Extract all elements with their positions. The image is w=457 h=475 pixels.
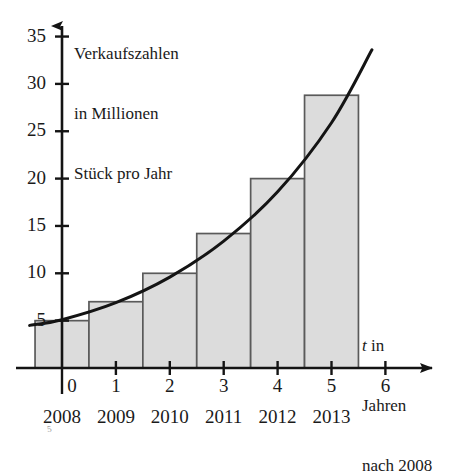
scan-artifact: 5 bbox=[46, 424, 52, 435]
x-tick-label: 1 bbox=[99, 375, 133, 397]
y-tick-label: 25 bbox=[2, 119, 46, 141]
y-axis-label-line-1: Verkaufszahlen bbox=[74, 44, 179, 64]
y-axis-label-line-3: Stück pro Jahr bbox=[74, 164, 179, 184]
x-tick-label: 0 bbox=[55, 375, 89, 397]
x-tick-label: 5 bbox=[315, 375, 349, 397]
y-tick-label: 5 bbox=[2, 309, 46, 331]
bar bbox=[305, 95, 359, 368]
x-tick-label: 3 bbox=[207, 375, 241, 397]
y-tick-label: 15 bbox=[2, 214, 46, 236]
year-label: 2010 bbox=[140, 406, 200, 428]
bar bbox=[251, 179, 305, 368]
year-label: 2011 bbox=[194, 406, 254, 428]
year-label: 2008 bbox=[32, 406, 92, 428]
x-tick-label: 6 bbox=[368, 375, 402, 397]
x-axis-label-line-3: nach 2008 bbox=[362, 456, 432, 475]
y-axis-label-line-2: in Millionen bbox=[74, 104, 179, 124]
y-tick-label: 35 bbox=[2, 25, 46, 47]
x-tick-label: 4 bbox=[261, 375, 295, 397]
x-axis-label-line-1: t in bbox=[362, 336, 432, 356]
x-axis-label-line-2: Jahren bbox=[362, 396, 432, 416]
variable-t: t bbox=[362, 336, 367, 355]
y-tick-label: 30 bbox=[2, 72, 46, 94]
year-label: 2012 bbox=[248, 406, 308, 428]
y-axis-label: Verkaufszahlen in Millionen Stück pro Ja… bbox=[74, 4, 179, 225]
y-tick-label: 20 bbox=[2, 167, 46, 189]
year-label: 2013 bbox=[302, 406, 362, 428]
x-tick-label: 2 bbox=[153, 375, 187, 397]
y-tick-label: 10 bbox=[2, 261, 46, 283]
bar bbox=[89, 302, 143, 368]
year-label: 2009 bbox=[86, 406, 146, 428]
